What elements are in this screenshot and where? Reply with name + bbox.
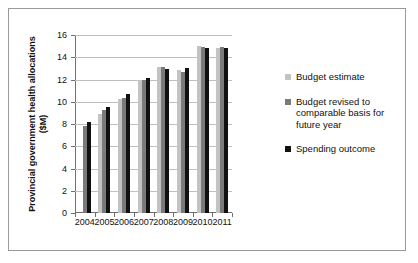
legend-item[interactable]: Budget estimate bbox=[285, 71, 403, 83]
bar-group bbox=[134, 35, 154, 213]
y-tick-label: 6 bbox=[43, 141, 67, 151]
x-tick-label: 2004 bbox=[75, 217, 95, 227]
bar-group bbox=[154, 35, 174, 213]
y-tick-label: 14 bbox=[43, 52, 67, 62]
legend-label: Budget estimate bbox=[296, 71, 365, 83]
legend-item[interactable]: Budget revised to comparable basis for f… bbox=[285, 96, 403, 131]
bar-group bbox=[173, 35, 193, 213]
y-tick-label: 10 bbox=[43, 97, 67, 107]
bar[interactable] bbox=[87, 122, 91, 213]
legend-swatch-icon bbox=[285, 99, 291, 105]
bar[interactable] bbox=[224, 48, 228, 213]
legend-label: Spending outcome bbox=[296, 143, 375, 155]
chart-legend: Budget estimateBudget revised to compara… bbox=[285, 71, 403, 168]
bar-group bbox=[193, 35, 213, 213]
x-tick-label: 2008 bbox=[153, 217, 173, 227]
y-tick-label: 4 bbox=[43, 164, 67, 174]
x-tick-label: 2010 bbox=[193, 217, 213, 227]
bar-group bbox=[95, 35, 115, 213]
bar[interactable] bbox=[205, 48, 209, 213]
x-tick-label: 2009 bbox=[173, 217, 193, 227]
bar[interactable] bbox=[185, 68, 189, 213]
x-tick-label: 2011 bbox=[213, 217, 232, 227]
y-tick-label: 12 bbox=[43, 75, 67, 85]
bar[interactable] bbox=[165, 69, 169, 213]
x-tick-mark bbox=[232, 213, 233, 217]
y-tick-label: 16 bbox=[43, 30, 67, 40]
y-tick-label: 2 bbox=[43, 186, 67, 196]
x-tick-label: 2006 bbox=[114, 217, 134, 227]
legend-swatch-icon bbox=[285, 146, 291, 152]
bar-group bbox=[114, 35, 134, 213]
bar-group bbox=[75, 35, 95, 213]
bar[interactable] bbox=[126, 94, 130, 213]
bar[interactable] bbox=[146, 78, 150, 213]
y-tick-label: 8 bbox=[43, 119, 67, 129]
legend-swatch-icon bbox=[285, 74, 291, 80]
x-tick-label: 2007 bbox=[134, 217, 154, 227]
chart-frame: Provincial government health allocations… bbox=[8, 8, 406, 251]
y-tick-label: 0 bbox=[43, 208, 67, 218]
legend-label: Budget revised to comparable basis for f… bbox=[296, 96, 403, 131]
x-tick-label: 2005 bbox=[94, 217, 114, 227]
legend-item[interactable]: Spending outcome bbox=[285, 143, 403, 155]
bar-group bbox=[212, 35, 232, 213]
plot-area: 20042005200620072008200920102011 bbox=[75, 35, 232, 213]
y-axis-tick-labels: 0246810121416 bbox=[47, 29, 71, 219]
bar[interactable] bbox=[106, 107, 110, 213]
